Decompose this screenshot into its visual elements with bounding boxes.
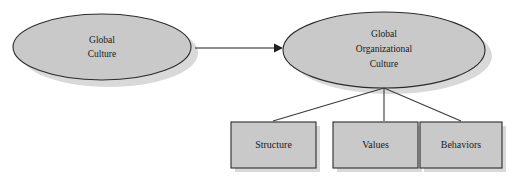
arrow-head-icon [274, 44, 283, 53]
behaviors-label: Behaviors [441, 139, 482, 150]
node-values[interactable]: Values [333, 122, 422, 172]
connector-to-behaviors [384, 88, 461, 121]
diagram-canvas: Global Culture Global Organizational Cul… [0, 0, 521, 177]
node-global-culture[interactable]: Global Culture [13, 14, 198, 87]
values-label: Values [362, 139, 389, 150]
node-global-organizational-culture[interactable]: Global Organizational Culture [283, 12, 492, 94]
global-organizational-culture-label-line2: Organizational [356, 44, 413, 54]
structure-label: Structure [255, 139, 292, 150]
global-culture-ellipse[interactable] [13, 14, 191, 80]
global-culture-label-line2: Culture [88, 49, 117, 59]
global-culture-label-line1: Global [89, 35, 115, 45]
global-organizational-culture-label-line3: Culture [370, 59, 399, 69]
connector-to-structure [273, 88, 384, 121]
diagram-svg: Global Culture Global Organizational Cul… [0, 0, 521, 177]
arrow-culture-to-org-culture [195, 44, 283, 53]
node-structure[interactable]: Structure [231, 122, 320, 172]
connector-group [273, 88, 461, 121]
node-behaviors[interactable]: Behaviors [420, 122, 506, 172]
global-organizational-culture-label-line1: Global [371, 29, 397, 39]
